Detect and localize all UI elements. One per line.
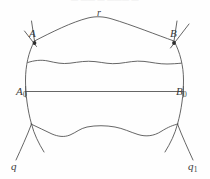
top-curve-r [35,17,175,41]
label-q1-main: q [188,160,194,172]
point-marker-B [172,41,176,45]
label-point-A: A [29,28,36,39]
left-arc-q-tail [16,124,32,160]
right-arc-q1-tail [178,124,194,160]
label-point-B0: B0 [176,86,186,97]
label-point-A0: A0 [16,86,26,97]
point-marker-A [33,41,37,45]
label-q1-subscript: 1 [194,165,198,174]
label-curve-q: q [11,161,17,172]
label-point-B: B [170,28,177,39]
label-B0-subscript: 0 [183,90,187,99]
label-A0-main: A [16,85,23,97]
upper-wavy-curve [28,60,181,64]
lower-wavy-curve [31,124,178,136]
figure-container: — —— — ——— — A B A0 B0 r q [0,0,210,179]
label-A0-subscript: 0 [23,90,27,99]
label-B0-main: B [176,85,183,97]
label-curve-q1: q1 [188,161,197,172]
label-curve-r: r [97,8,101,18]
